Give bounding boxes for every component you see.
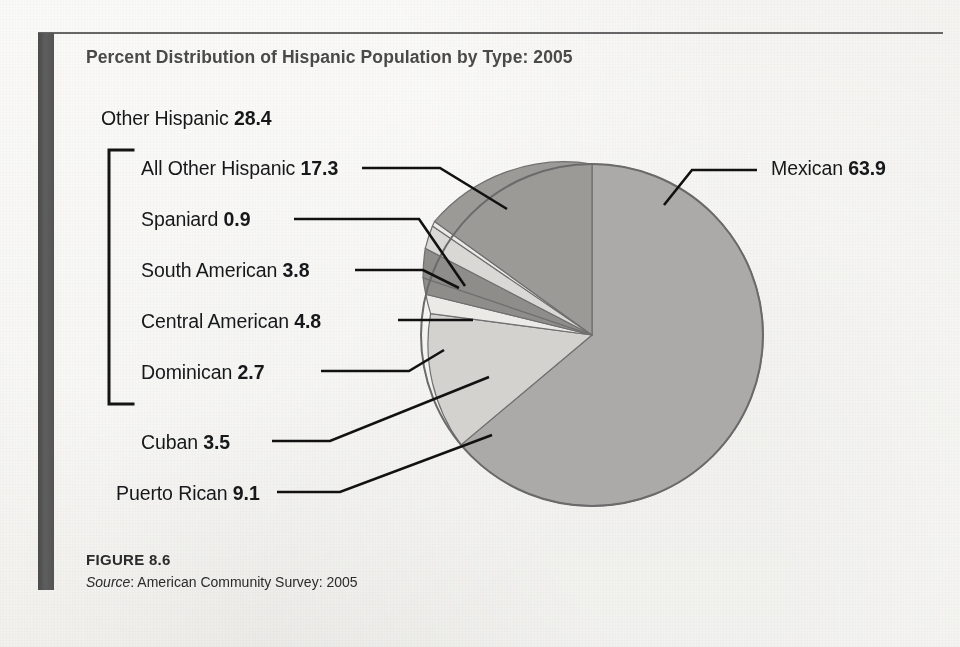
- other-hispanic-bracket: [109, 150, 133, 404]
- label-central-american: Central American 4.8: [141, 310, 321, 333]
- label-south-american-value: 3.8: [283, 259, 310, 281]
- label-south-american-name: South American: [141, 259, 277, 281]
- pie-slices: [421, 162, 763, 506]
- label-other-hispanic-name: Other Hispanic: [101, 107, 229, 129]
- label-puerto-rican: Puerto Rican 9.1: [116, 482, 260, 505]
- leader-line-dominican: [321, 350, 444, 371]
- label-all-other-hispanic: All Other Hispanic 17.3: [141, 157, 338, 180]
- label-mexican-name: Mexican: [771, 157, 843, 179]
- label-dominican: Dominican 2.7: [141, 361, 264, 384]
- label-mexican: Mexican 63.9: [771, 157, 886, 180]
- label-central-american-value: 4.8: [294, 310, 321, 332]
- source-prefix: Source: [86, 574, 130, 590]
- label-puerto-rican-name: Puerto Rican: [116, 482, 228, 504]
- label-dominican-value: 2.7: [238, 361, 265, 383]
- label-cuban-value: 3.5: [203, 431, 230, 453]
- label-all-other-hispanic-value: 17.3: [301, 157, 339, 179]
- figure-source: Source: American Community Survey: 2005: [86, 574, 358, 590]
- label-spaniard-name: Spaniard: [141, 208, 218, 230]
- label-all-other-hispanic-name: All Other Hispanic: [141, 157, 295, 179]
- label-spaniard-value: 0.9: [224, 208, 251, 230]
- source-text: : American Community Survey: 2005: [130, 574, 357, 590]
- label-south-american: South American 3.8: [141, 259, 309, 282]
- label-cuban-name: Cuban: [141, 431, 198, 453]
- label-cuban: Cuban 3.5: [141, 431, 230, 454]
- label-other-hispanic-value: 28.4: [234, 107, 272, 129]
- label-spaniard: Spaniard 0.9: [141, 208, 250, 231]
- label-other-hispanic: Other Hispanic 28.4: [101, 107, 271, 130]
- label-mexican-value: 63.9: [848, 157, 886, 179]
- figure-number: FIGURE 8.6: [86, 551, 171, 568]
- label-puerto-rican-value: 9.1: [233, 482, 260, 504]
- figure-container: Percent Distribution of Hispanic Populat…: [0, 0, 960, 647]
- label-dominican-name: Dominican: [141, 361, 232, 383]
- label-central-american-name: Central American: [141, 310, 289, 332]
